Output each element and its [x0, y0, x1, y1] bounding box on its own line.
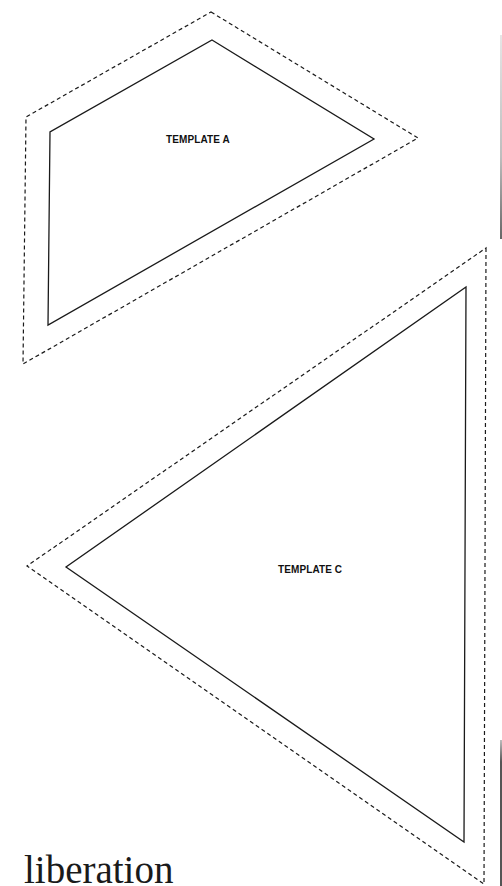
template-a-cut-line	[23, 12, 418, 364]
template-sheet: TEMPLATE A TEMPLATE C liberation	[0, 0, 502, 886]
template-a	[23, 12, 418, 364]
template-a-sew-line	[48, 40, 374, 325]
template-shapes	[0, 0, 502, 886]
template-c	[27, 248, 486, 884]
template-c-cut-line	[27, 248, 486, 884]
template-a-label: TEMPLATE A	[166, 134, 230, 146]
template-c-sew-line	[66, 287, 466, 842]
brand-wordmark: liberation	[24, 850, 173, 886]
template-c-label: TEMPLATE C	[278, 564, 342, 576]
